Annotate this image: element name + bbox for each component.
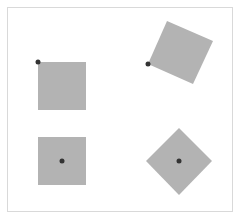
square-rotated-center-origin [146,128,212,195]
square-rotated-corner-origin [146,21,214,84]
rotation-diagram [0,0,242,219]
square-unrotated-center-origin [38,137,86,185]
origin-dot [60,159,65,164]
square-unrotated-topleft-origin [36,60,87,111]
origin-dot [146,62,151,67]
origin-dot [177,159,182,164]
origin-dot [36,60,41,65]
